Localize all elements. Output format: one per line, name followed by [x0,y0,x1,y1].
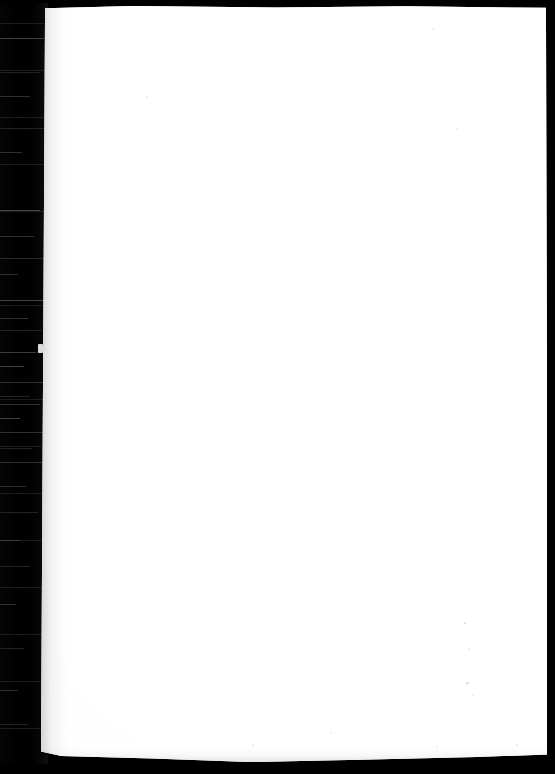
dust-speck [516,744,518,746]
page-inner-edge-shadow [41,4,67,762]
dust-speck [330,732,332,734]
dust-speck [436,746,438,748]
page-sheet [41,4,548,762]
page-text-body [89,60,504,706]
bright-edge-nick-artifact [38,344,43,353]
page-top-edge-line [41,4,548,6]
gutter-scan-streaks [0,0,48,774]
binding-gutter-shadow [0,0,48,774]
dust-speck [252,744,254,746]
scan-margin-top [0,0,555,3]
scan-margin-right [547,0,555,774]
dust-speck [432,28,434,30]
page-bottom-edge-shade [41,748,548,762]
scanned-page-canvas: Page is blank - no printed text, heading… [0,0,555,774]
scan-margin-bottom [0,764,555,774]
